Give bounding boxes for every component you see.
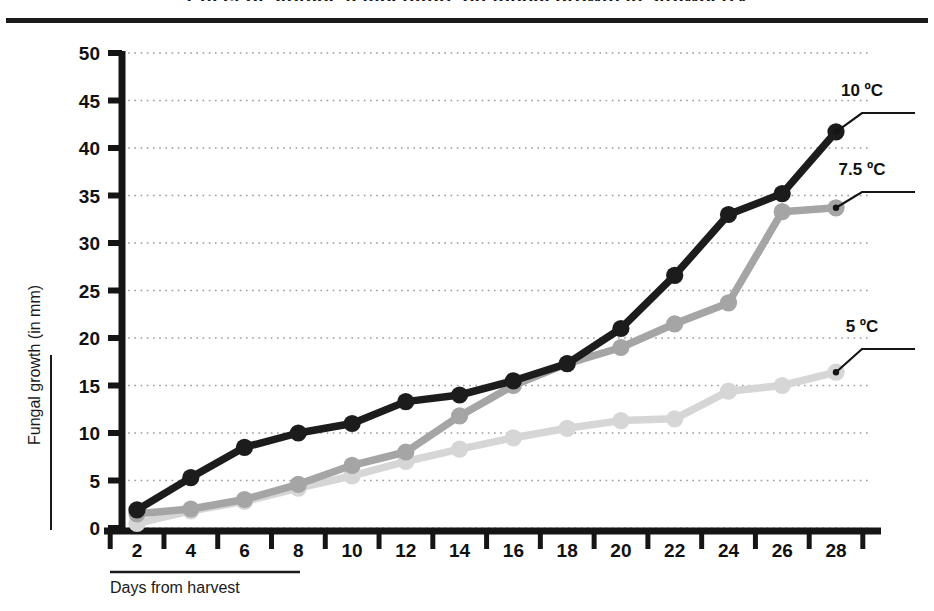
data-point-marker xyxy=(344,457,361,474)
y-tick-label: 10 xyxy=(79,423,100,444)
x-tick-label: 24 xyxy=(718,540,740,561)
data-point-marker xyxy=(720,206,737,223)
legend-label: 10 ºC xyxy=(841,81,883,100)
data-point-marker xyxy=(774,377,791,394)
data-point-marker xyxy=(559,420,576,437)
data-point-marker xyxy=(397,393,414,410)
data-point-marker xyxy=(720,294,737,311)
series-line xyxy=(137,208,836,514)
y-tick-label: 45 xyxy=(79,91,101,112)
y-tick-label: 0 xyxy=(89,518,100,539)
x-tick-label: 20 xyxy=(610,540,631,561)
x-tick-label: 4 xyxy=(185,540,196,561)
y-axis-title: Fungal growth (in mm) xyxy=(26,285,43,445)
data-point-marker xyxy=(451,386,468,403)
data-point-marker xyxy=(290,476,307,493)
x-tick-label: 10 xyxy=(342,540,363,561)
x-tick-label: 14 xyxy=(449,540,471,561)
y-tick-label: 25 xyxy=(79,281,101,302)
data-point-marker xyxy=(559,355,576,372)
legend-leader-line xyxy=(836,192,915,208)
y-tick-label: 20 xyxy=(79,328,100,349)
data-point-marker xyxy=(128,501,145,518)
data-point-marker xyxy=(236,439,253,456)
data-point-marker xyxy=(612,412,629,429)
data-point-marker xyxy=(612,320,629,337)
legend-anchor-dot xyxy=(833,369,839,375)
data-point-marker xyxy=(720,383,737,400)
x-tick-label: 26 xyxy=(772,540,793,561)
series-10c xyxy=(128,123,844,518)
legend-label: 7.5 ºC xyxy=(839,160,886,179)
y-tick-label: 5 xyxy=(89,471,100,492)
legend-anchor-dot xyxy=(833,205,839,211)
data-point-marker xyxy=(451,407,468,424)
y-tick-label: 40 xyxy=(79,138,100,159)
data-point-marker xyxy=(666,267,683,284)
legend-leader-line xyxy=(836,113,915,132)
data-point-marker xyxy=(344,415,361,432)
y-axis-title-group: Fungal growth (in mm) xyxy=(26,285,51,530)
line-chart-plot: 0510152025303540455024681012141618202224… xyxy=(0,0,934,611)
data-point-marker xyxy=(774,185,791,202)
chart-figure: Effect of storage temperature on fungal … xyxy=(0,0,934,611)
x-axis-title: Days from harvest xyxy=(110,579,240,596)
y-tick-label: 35 xyxy=(79,186,101,207)
y-tick-label: 50 xyxy=(79,43,100,64)
x-tick-label: 16 xyxy=(503,540,524,561)
data-point-marker xyxy=(505,429,522,446)
y-tick-label: 15 xyxy=(79,376,101,397)
data-point-marker xyxy=(451,441,468,458)
x-tick-label: 18 xyxy=(557,540,578,561)
data-point-marker xyxy=(236,491,253,508)
x-tick-label: 22 xyxy=(664,540,685,561)
x-tick-label: 12 xyxy=(395,540,416,561)
data-point-marker xyxy=(666,315,683,332)
legend-anchor-dot xyxy=(833,129,839,135)
legend-label: 5 ºC xyxy=(846,317,879,336)
data-point-marker xyxy=(666,410,683,427)
x-tick-label: 8 xyxy=(293,540,304,561)
data-point-marker xyxy=(182,500,199,517)
series-7.5c xyxy=(128,199,844,522)
data-point-marker xyxy=(612,339,629,356)
data-point-marker xyxy=(397,443,414,460)
x-tick-label: 2 xyxy=(132,540,143,561)
x-tick-label: 6 xyxy=(239,540,250,561)
data-point-marker xyxy=(774,203,791,220)
x-tick-label: 28 xyxy=(825,540,846,561)
y-tick-label: 30 xyxy=(79,233,100,254)
data-point-marker xyxy=(182,469,199,486)
data-point-marker xyxy=(505,372,522,389)
data-point-marker xyxy=(290,424,307,441)
legend-leader-line xyxy=(836,349,915,372)
